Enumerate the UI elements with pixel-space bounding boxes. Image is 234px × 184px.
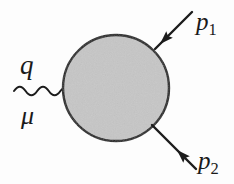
momentum-label-p2-subscript: 2 (211, 159, 219, 178)
momentum-label-p2-base: p (198, 147, 211, 174)
photon-wavy-line (14, 87, 66, 96)
momentum-line-p2 (152, 125, 196, 169)
momentum-label-p2: p2 (198, 148, 219, 177)
momentum-label-p1-subscript: 1 (209, 20, 217, 39)
momentum-label-p1: p1 (196, 9, 217, 38)
photon-momentum-label-q: q (20, 52, 34, 79)
photon-index-label-mu: μ (21, 103, 34, 129)
momentum-label-p1-base: p (196, 8, 209, 35)
feynman-diagram-figure: q μ p1 p2 (0, 0, 234, 184)
